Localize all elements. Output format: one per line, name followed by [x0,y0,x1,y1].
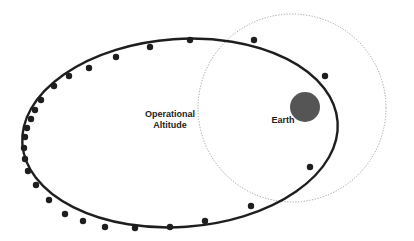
orbit-marker-dot [62,211,68,217]
earth-label: Earth [271,115,294,125]
orbit-marker-dot [25,168,31,174]
orbit-marker-dot [102,224,108,230]
orbit-marker-dot [187,37,193,43]
orbit-marker-dot [251,37,257,43]
orbit-marker-dot [32,107,38,113]
orbit-marker-dot [248,203,254,209]
orbit-marker-dot [24,125,30,131]
orbit-marker-dot [86,65,92,71]
orbit-diagram: Operational Altitude Earth [0,0,414,241]
orbit-marker-dot [132,225,138,231]
orbit-marker-dot [66,73,72,79]
orbit-marker-dot [21,145,27,151]
orbit-marker-dot [22,156,28,162]
orbit-marker-dot [33,182,39,188]
orbit-marker-dot [46,197,52,203]
orbit-marker-dot [38,97,44,103]
orbit-marker-dot [147,44,153,50]
orbit-marker-dot [202,218,208,224]
orbit-marker-dot [51,83,57,89]
orbit-marker-dot [322,73,328,79]
orbit-marker-dot [167,224,173,230]
orbit-marker-dot [113,54,119,60]
orbit-label-line2: Altitude [153,120,187,130]
orbit-marker-dot [22,134,28,140]
orbit-marker-dot [28,116,34,122]
orbit-label-line1: Operational [145,109,195,119]
background [0,0,414,241]
orbit-marker-dot [80,218,86,224]
orbit-marker-dot [307,164,313,170]
